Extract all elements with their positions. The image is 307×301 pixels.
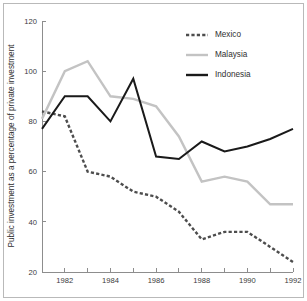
y-axis-tick-label: 20 [29, 268, 37, 277]
y-axis-tick-label: 120 [24, 17, 37, 26]
legend-label-malaysia: Malaysia [215, 50, 248, 59]
axes: 20406080100120198219841986198819901992 [24, 17, 301, 285]
y-axis-tick-label: 100 [24, 67, 37, 76]
series-line-indonesia [42, 79, 293, 159]
y-axis-tick-label: 60 [29, 167, 37, 176]
x-axis-tick-label: 1986 [148, 276, 165, 285]
line-chart: Public investment as a percentage of pri… [0, 0, 307, 301]
y-axis-tick-label: 40 [29, 218, 37, 227]
legend-label-mexico: Mexico [215, 30, 241, 39]
y-axis-title: Public investment as a percentage of pri… [7, 44, 16, 248]
y-axis-tick-label: 80 [29, 117, 37, 126]
legend-label-indonesia: Indonesia [215, 70, 251, 79]
x-axis-tick-label: 1990 [239, 276, 256, 285]
chart-figure: Public investment as a percentage of pri… [0, 0, 307, 301]
series-line-mexico [42, 111, 293, 262]
series-line-malaysia [42, 61, 293, 204]
y-axis-title-label: Public investment as a percentage of pri… [7, 44, 16, 248]
x-axis-tick-label: 1984 [102, 276, 119, 285]
chart-legend: MexicoMalaysiaIndonesia [186, 30, 251, 79]
x-axis-tick-label: 1992 [285, 276, 302, 285]
x-axis-tick-label: 1982 [56, 276, 73, 285]
x-axis-tick-label: 1988 [193, 276, 210, 285]
series-lines [42, 61, 293, 262]
